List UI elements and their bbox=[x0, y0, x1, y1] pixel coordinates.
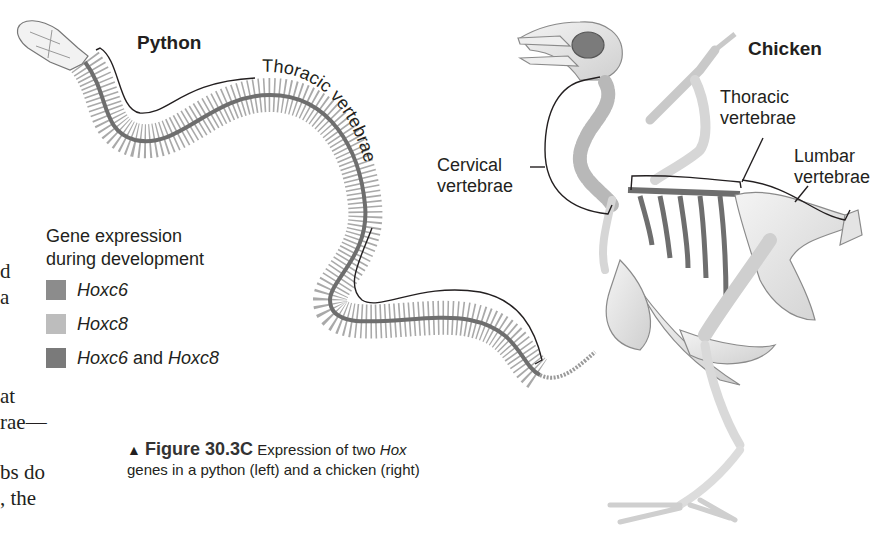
legend: Gene expression during development Hoxc6… bbox=[46, 225, 219, 375]
figure-caption: ▲ Figure 30.3C Expression of two Hox gen… bbox=[127, 440, 447, 479]
legend-item-hoxc6-and-hoxc8: Hoxc6 and Hoxc8 bbox=[46, 341, 219, 375]
cervical-line2: vertebrae bbox=[437, 176, 513, 197]
triangle-marker-icon: ▲ bbox=[127, 442, 141, 458]
body-text-fragment: d bbox=[0, 257, 11, 285]
caption-text: Expression of two bbox=[257, 441, 380, 458]
legend-label-part1: Hoxc6 bbox=[77, 348, 128, 369]
legend-label: Hoxc6 bbox=[77, 280, 128, 301]
legend-title-line2: during development bbox=[46, 248, 219, 271]
body-text-fragment: rae— bbox=[0, 408, 47, 436]
cervical-line1: Cervical bbox=[437, 155, 513, 176]
body-text-fragment: bs do bbox=[0, 458, 45, 486]
legend-title-line1: Gene expression bbox=[46, 225, 219, 248]
legend-item-hoxc8: Hoxc8 bbox=[46, 307, 219, 341]
figure-number: Figure 30.3C bbox=[145, 439, 253, 459]
swatch-hoxc6-hoxc8 bbox=[46, 348, 66, 368]
legend-title: Gene expression during development bbox=[46, 225, 219, 271]
thoracic-line1: Thoracic bbox=[720, 87, 796, 108]
chicken-title: Chicken bbox=[748, 38, 822, 60]
chicken-thoracic-label: Thoracic vertebrae bbox=[720, 87, 796, 129]
caption-italic: Hox bbox=[380, 441, 407, 458]
body-text-fragment: a bbox=[0, 283, 9, 311]
python-title: Python bbox=[137, 32, 201, 54]
legend-label-part2: Hoxc8 bbox=[168, 348, 219, 369]
legend-label-connector: and bbox=[128, 348, 168, 369]
chicken-lumbar-label: Lumbar vertebrae bbox=[794, 146, 870, 188]
legend-label: Hoxc8 bbox=[77, 314, 128, 335]
thoracic-line2: vertebrae bbox=[720, 108, 796, 129]
chicken-skeleton bbox=[518, 22, 862, 522]
lumbar-line1: Lumbar bbox=[794, 146, 870, 167]
lumbar-line2: vertebrae bbox=[794, 167, 870, 188]
python-skull bbox=[17, 21, 88, 70]
body-text-fragment: at bbox=[0, 382, 15, 410]
chicken-cervical-label: Cervical vertebrae bbox=[437, 155, 513, 197]
body-text-fragment: , the bbox=[0, 484, 36, 512]
swatch-hoxc6 bbox=[46, 280, 66, 300]
caption-line2: genes in a python (left) and a chicken (… bbox=[127, 460, 447, 479]
legend-item-hoxc6: Hoxc6 bbox=[46, 273, 219, 307]
swatch-hoxc8 bbox=[46, 314, 66, 334]
